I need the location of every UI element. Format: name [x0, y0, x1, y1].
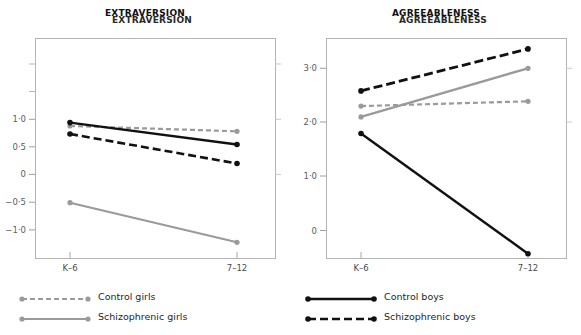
- figure-root: EXTRAVERSION EXTRAVERSION 1·0 0·5 0 −0·5…: [0, 0, 581, 335]
- y-tick-label: −1·0: [5, 225, 26, 235]
- series-control-girls: [358, 99, 530, 109]
- panel-extraversion: EXTRAVERSION EXTRAVERSION 1·0 0·5 0 −0·5…: [0, 0, 290, 280]
- legend-item-control-girls[interactable]: Control girls: [18, 287, 156, 305]
- legend-swatch-solid-gray: [18, 310, 92, 322]
- series-schizophrenic-boys: [67, 131, 240, 166]
- series-control-boys: [358, 131, 531, 257]
- series-control-boys: [67, 120, 240, 148]
- series-schizophrenic-girls: [67, 200, 239, 245]
- legend-item-control-boys[interactable]: Control boys: [304, 287, 444, 305]
- y-tick-label: 0: [21, 169, 26, 179]
- y-axis-ticks: [29, 64, 35, 230]
- panel-agreeableness: AGREEABLENESS AGREEABLENESS 3·0 2·0 1·0 …: [291, 0, 581, 280]
- y-tick-label: 2·0: [303, 117, 317, 127]
- legend-item-schizophrenic-boys[interactable]: Schizophrenic boys: [304, 307, 476, 325]
- x-tick-label: 7–12: [518, 263, 538, 273]
- legend-swatch-dashed-black: [304, 310, 378, 322]
- plot-frame: [327, 39, 567, 259]
- x-tick-label: K–6: [353, 263, 368, 273]
- y-axis-ticks: [320, 68, 326, 230]
- x-axis-ticks: [70, 252, 237, 259]
- legend-label: Control girls: [98, 291, 156, 302]
- series-schizophrenic-girls: [358, 66, 530, 120]
- y-tick-label: 1·0: [303, 171, 317, 181]
- y-tick-label: −0·5: [5, 197, 26, 207]
- y-tick-label: 0: [312, 226, 317, 236]
- x-tick-label: 7–12: [227, 263, 247, 273]
- y-tick-label: 3·0: [303, 63, 317, 73]
- series-schizophrenic-boys: [358, 46, 531, 94]
- x-tick-label: K–6: [62, 263, 77, 273]
- y-tick-label: 0·5: [12, 142, 26, 152]
- y-tick-label: 1·0: [12, 114, 26, 124]
- legend-label: Control boys: [384, 291, 444, 302]
- legend-item-schizophrenic-girls[interactable]: Schizophrenic girls: [18, 307, 187, 325]
- legend-label: Schizophrenic boys: [384, 311, 476, 322]
- legend-label: Schizophrenic girls: [98, 311, 187, 322]
- plot-agreeableness: 3·0 2·0 1·0 0 K–6 7–12: [291, 0, 581, 280]
- legend-swatch-solid-black: [304, 290, 378, 302]
- legend-swatch-dashed-gray: [18, 290, 92, 302]
- legend-girls: Control girls Schizophrenic girls: [0, 283, 290, 335]
- x-axis-ticks: [361, 252, 528, 259]
- plot-extraversion: 1·0 0·5 0 −0·5 −1·0 K–6 7–12: [0, 0, 290, 280]
- legend-boys: Control boys Schizophrenic boys: [291, 283, 581, 335]
